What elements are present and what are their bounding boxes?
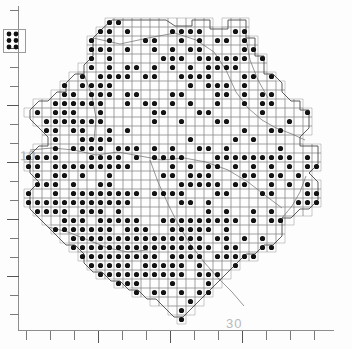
detached-island-inset [3,29,26,53]
grid-squares [24,18,321,324]
grid-squares-layer [24,18,321,324]
map-svg [0,0,352,349]
map-plate [0,0,352,349]
atlas-map-figure: 10 30 [0,0,352,349]
